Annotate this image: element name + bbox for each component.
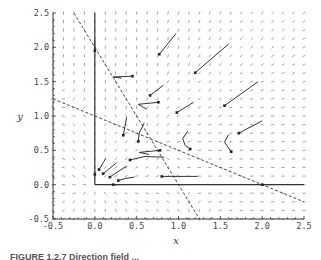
field-arrow [219,37,221,40]
field-arrow [147,114,148,117]
field-arrow [282,12,284,14]
field-arrow [282,29,284,31]
field-arrow [115,106,116,109]
field-arrow [62,209,64,211]
trajectory [138,102,158,109]
x-tick-label: 1.0 [171,221,186,231]
field-arrow [188,72,190,75]
field-arrow [282,46,285,48]
field-arrow [271,64,274,66]
field-arrow [199,20,200,23]
field-arrow [219,107,222,108]
trajectory-endpoint [160,175,163,178]
field-arrow [62,89,64,91]
field-arrow [147,97,148,100]
trajectory-endpoint [102,172,105,175]
trajectory [113,76,132,78]
field-arrow [178,54,179,57]
field-arrow [271,29,273,31]
field-arrow [167,89,169,92]
field-arrow [157,115,159,118]
field-arrow [178,89,180,92]
field-arrow [261,116,264,117]
trajectory-endpoint [112,183,115,186]
field-arrow [230,46,232,48]
field-arrow [63,80,65,83]
field-arrow [282,90,285,91]
trajectory [177,102,194,112]
field-arrow [219,142,222,143]
field-arrow [156,132,158,134]
field-arrow [62,115,65,116]
field-arrow [115,149,117,151]
field-arrow [62,124,65,126]
trajectory-endpoint [158,53,161,56]
field-arrow [177,141,180,142]
field-arrow [198,141,201,142]
field-arrow [62,141,65,143]
field-arrow [240,38,242,40]
field-arrow [292,21,294,23]
field-arrow [157,158,159,161]
field-arrow [115,115,117,118]
field-arrow [188,63,190,66]
field-arrow [105,106,106,109]
field-arrow [73,98,75,100]
field-arrow [198,201,200,203]
field-arrow [292,64,295,65]
field-arrow [261,107,264,108]
field-arrow [251,46,253,48]
field-arrow [115,209,117,212]
field-arrow [208,115,211,116]
field-arrow [146,167,149,169]
field-arrow [230,38,232,40]
field-arrow [230,72,232,74]
field-arrow [198,193,201,194]
field-arrow [199,37,201,40]
trajectory-endpoint [131,75,134,78]
field-arrow [188,12,189,15]
field-arrow [292,29,295,31]
field-arrow [104,192,106,194]
field-arrow [209,12,210,15]
field-arrow [188,46,189,49]
field-arrow [178,11,179,14]
trajectory-endpoint [157,101,160,104]
field-arrow [147,106,148,109]
field-arrow [168,20,169,23]
field-arrow [209,63,211,65]
field-arrow [250,98,253,99]
field-arrow [72,193,75,194]
field-arrow [188,37,189,40]
trajectory-endpoint [159,149,162,152]
field-arrow [167,124,169,126]
field-arrow [240,124,243,125]
field-arrow [198,115,201,117]
field-arrow [167,106,169,109]
field-arrow [282,98,285,99]
field-arrow [114,193,117,194]
x-tick-label: 2.5 [296,221,311,231]
field-arrow [62,176,65,177]
field-arrow [104,115,106,117]
field-arrow [146,141,148,143]
trajectory-endpoint [137,140,140,143]
x-tick-labels: -0.50.00.51.01.52.02.5 [43,221,312,231]
field-arrow [84,123,86,126]
field-arrow [167,132,170,133]
field-arrow [198,107,201,109]
field-arrow [282,38,285,40]
field-arrow [209,29,211,32]
field-arrow [240,20,242,23]
field-arrow [303,12,305,14]
field-arrow [199,209,200,212]
field-arrow [292,124,295,125]
field-arrow [188,29,189,32]
field-arrow [157,46,158,49]
field-arrow [177,124,180,126]
trajectory-endpoint [223,104,226,107]
field-arrow [219,98,222,100]
field-arrow [63,72,64,75]
field-arrow [147,29,148,32]
field-arrow [83,166,85,169]
